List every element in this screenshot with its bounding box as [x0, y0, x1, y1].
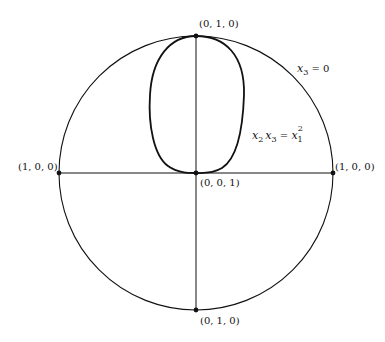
- point-bottom: [194, 308, 199, 313]
- label-center: (0, 0, 1): [200, 177, 240, 188]
- label-bottom: (0, 1, 0): [200, 315, 240, 326]
- point-top: [194, 34, 199, 39]
- label-top: (0, 1, 0): [199, 18, 239, 29]
- point-center: [194, 171, 199, 176]
- label-left: (1, 0, 0): [18, 161, 58, 172]
- label-line-at-infinity: x3 = 0: [297, 62, 329, 77]
- label-right: (1, 0, 0): [335, 161, 375, 172]
- label-conic-equation: x2x3 = x12: [252, 124, 303, 144]
- conic-curve: [150, 36, 244, 173]
- projective-plane-diagram: (0, 1, 0) (0, 1, 0) (1, 0, 0) (1, 0, 0) …: [0, 0, 385, 342]
